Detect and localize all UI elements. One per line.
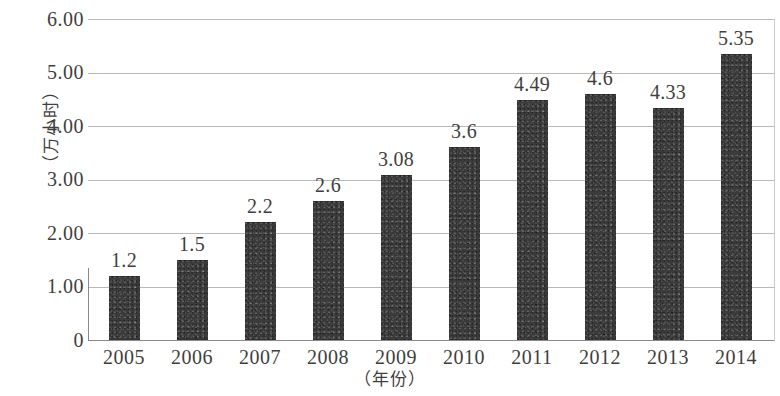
x-tick-label-2014: 2014: [701, 346, 771, 368]
bar-2012[interactable]: [585, 94, 616, 340]
bar-2007[interactable]: [245, 222, 276, 340]
x-tick-label-2006: 2006: [157, 346, 227, 368]
bar-value-label-2012: 4.6: [565, 68, 635, 89]
bar-2013[interactable]: [653, 108, 684, 340]
bar-2006[interactable]: [177, 260, 208, 340]
plot-area: 1.2 1.5 2.2 2.6 3.08 3.6 4.49 4.6 4.33 5…: [88, 19, 775, 340]
bar-2014[interactable]: [721, 54, 752, 340]
y-tick-label: 3.00: [8, 169, 84, 189]
x-tick-label-2012: 2012: [565, 346, 635, 368]
bar-value-label-2005: 1.2: [89, 250, 159, 271]
bar-2010[interactable]: [449, 147, 480, 340]
bar-value-label-2013: 4.33: [633, 82, 703, 103]
bar-value-label-2010: 3.6: [429, 121, 499, 142]
y-tick-label: 6.00: [8, 9, 84, 29]
x-axis-title: （年份）: [0, 370, 780, 390]
gridline-baseline-0: [88, 340, 775, 341]
bar-value-label-2008: 2.6: [293, 175, 363, 196]
bar-value-label-2014: 5.35: [701, 28, 771, 49]
y-tick-label: 5.00: [8, 62, 84, 82]
bar-value-label-2006: 1.5: [157, 234, 227, 255]
x-tick-label-2007: 2007: [225, 346, 295, 368]
gridline-6: [88, 19, 775, 20]
y-tick-label: 0: [8, 330, 84, 350]
bar-chart: （万小时） 6.00 5.00 4.00 3.00 2.00 1.00 0 1.…: [0, 0, 780, 396]
bar-value-label-2007: 2.2: [225, 196, 295, 217]
x-tick-label-2008: 2008: [293, 346, 363, 368]
y-axis-line: [88, 268, 89, 341]
y-axis-tick-labels: 6.00 5.00 4.00 3.00 2.00 1.00 0: [0, 19, 84, 340]
x-tick-label-2010: 2010: [429, 346, 499, 368]
y-tick-label: 2.00: [8, 223, 84, 243]
bar-2009[interactable]: [381, 175, 412, 340]
y-tick-label: 4.00: [8, 116, 84, 136]
x-tick-label-2011: 2011: [497, 346, 567, 368]
bar-value-label-2009: 3.08: [361, 149, 431, 170]
x-tick-label-2005: 2005: [89, 346, 159, 368]
bar-2008[interactable]: [313, 201, 344, 340]
bar-2005[interactable]: [109, 276, 140, 340]
gridline-5: [88, 73, 775, 74]
x-tick-label-2009: 2009: [361, 346, 431, 368]
y-tick-label: 1.00: [8, 276, 84, 296]
plot-right-edge: [774, 19, 775, 341]
bar-value-label-2011: 4.49: [497, 74, 567, 95]
bar-2011[interactable]: [517, 100, 548, 340]
x-tick-label-2013: 2013: [633, 346, 703, 368]
